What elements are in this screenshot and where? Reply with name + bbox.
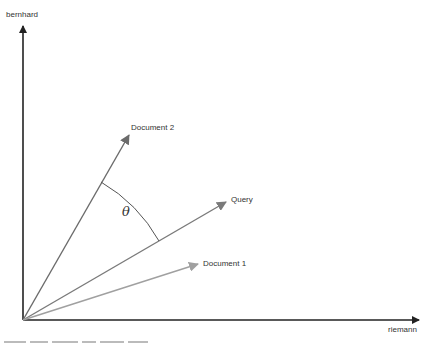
angle-theta-label: θ xyxy=(122,204,130,219)
angle-arc xyxy=(101,182,159,241)
document-1-vector xyxy=(23,264,198,320)
document-2-vector xyxy=(23,135,129,320)
query-vector xyxy=(23,202,226,320)
y-axis-label: bernhard xyxy=(6,10,38,20)
x-axis-label: riemann xyxy=(388,325,417,335)
document-2-label: Document 2 xyxy=(131,123,174,133)
document-1-label: Document 1 xyxy=(203,259,246,269)
query-label: Query xyxy=(231,195,253,205)
figure-caption-clipped xyxy=(0,338,436,343)
vector-diagram xyxy=(0,0,436,343)
